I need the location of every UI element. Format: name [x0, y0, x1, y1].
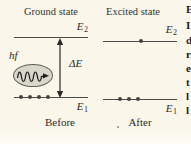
- photon-oval: [13, 64, 53, 87]
- right-upper-electrons: [139, 39, 143, 43]
- energy-level-diagram: Ground state E2 ΔE hf E1 Before Excited …: [0, 0, 191, 144]
- electron-dot: [118, 97, 122, 101]
- cropped-text-fragment: I: [186, 20, 190, 31]
- before-caption: Before: [23, 116, 97, 128]
- after-caption: After: [103, 116, 177, 128]
- cropped-adjacent-text-column: EIdretll: [186, 0, 191, 144]
- excited-state-title: Excited state: [96, 6, 170, 17]
- photon-wave-icon: [14, 65, 52, 86]
- cropped-text-fragment: l: [186, 91, 189, 102]
- level-subscript: 1: [173, 107, 177, 116]
- right-lower-level-label: E1: [103, 103, 177, 117]
- electron-dot: [127, 97, 131, 101]
- right-lower-electrons: [118, 97, 140, 101]
- cropped-text-fragment: l: [186, 105, 189, 116]
- left-upper-level-line: [14, 37, 88, 38]
- cropped-text-fragment: t: [186, 77, 190, 88]
- cropped-text-fragment: e: [186, 63, 191, 74]
- level-symbol: E: [77, 20, 84, 32]
- level-symbol: E: [166, 23, 173, 35]
- left-lower-electrons: [19, 95, 50, 99]
- level-subscript: 1: [84, 105, 88, 114]
- electron-dot: [136, 97, 140, 101]
- energy-gap-arrow-icon: [54, 38, 66, 98]
- energy-gap-label: ΔE: [69, 57, 82, 69]
- level-symbol: E: [166, 102, 173, 114]
- cropped-text-fragment: E: [186, 4, 191, 15]
- right-lower-level-line: [103, 99, 177, 100]
- right-upper-level-label: E2: [103, 24, 177, 38]
- left-lower-level-label: E1: [14, 101, 88, 115]
- electron-dot: [139, 39, 143, 43]
- left-upper-level-label: E2: [14, 21, 88, 35]
- ground-state-title: Ground state: [14, 6, 88, 17]
- cropped-text-fragment: r: [186, 49, 191, 60]
- electron-dot: [46, 95, 50, 99]
- level-symbol: E: [77, 100, 84, 112]
- photon-energy-label: hf: [9, 50, 18, 61]
- electron-dot: [19, 95, 23, 99]
- level-subscript: 2: [84, 25, 88, 34]
- print-speck: [117, 126, 119, 128]
- cropped-text-fragment: d: [186, 35, 191, 46]
- electron-dot: [37, 95, 41, 99]
- level-subscript: 2: [173, 28, 177, 37]
- electron-dot: [28, 95, 32, 99]
